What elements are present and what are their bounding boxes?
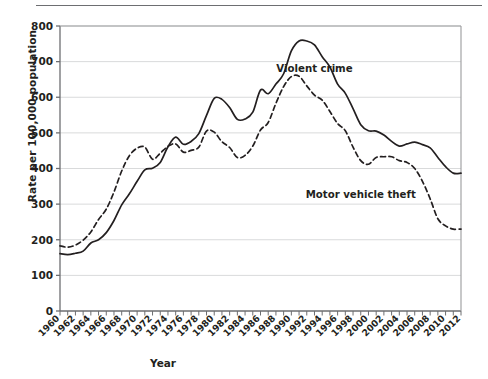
- series-line-violent-crime: [60, 40, 461, 255]
- figure: Rate per 100,000 population Year 0100200…: [0, 0, 488, 379]
- gridlines: [60, 26, 461, 275]
- y-tick-label: 300: [31, 198, 53, 210]
- y-tick-label: 600: [31, 91, 53, 103]
- y-tick-label: 200: [31, 234, 53, 246]
- y-tick-label: 700: [31, 55, 53, 67]
- y-tick-label: 500: [31, 127, 53, 139]
- x-axis-ticks: 1960196219641966196819701972197419761978…: [36, 311, 463, 339]
- y-axis-ticks: 0100200300400500600700800: [31, 20, 60, 317]
- y-tick-label: 800: [31, 20, 53, 32]
- series-label-motor-vehicle-theft: Motor vehicle theft: [306, 189, 416, 200]
- line-chart-plot: 0100200300400500600700800 19601962196419…: [0, 0, 488, 379]
- series-line-motor-vehicle-theft: [60, 75, 461, 247]
- y-tick-label: 400: [31, 162, 53, 174]
- data-series-group: [60, 40, 461, 255]
- y-tick-label: 100: [31, 269, 53, 281]
- series-label-violent-crime: Violent crime: [276, 63, 352, 74]
